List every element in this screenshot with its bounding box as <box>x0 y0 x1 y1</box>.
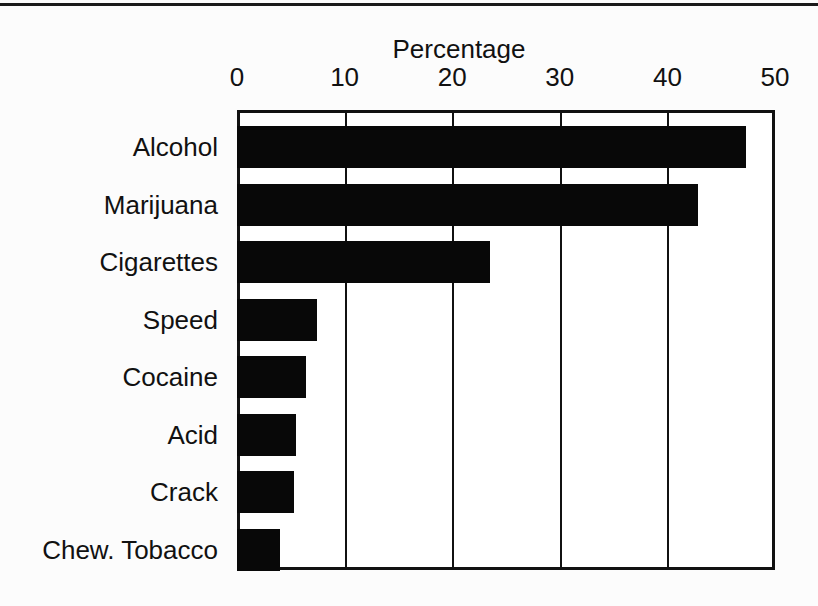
bar <box>237 126 746 168</box>
bar <box>237 414 296 456</box>
y-category-label: Cigarettes <box>100 241 219 283</box>
y-category-label: Cocaine <box>123 356 218 398</box>
y-category-label: Acid <box>167 414 218 456</box>
y-category-label: Marijuana <box>104 184 218 226</box>
x-tick-label: 10 <box>330 62 359 93</box>
y-axis-category-labels: AlcoholMarijuanaCigarettesSpeedCocaineAc… <box>0 110 228 570</box>
bar <box>237 356 306 398</box>
x-tick-label: 40 <box>653 62 682 93</box>
bar <box>237 184 698 226</box>
bar <box>237 299 317 341</box>
bars-layer <box>237 110 775 570</box>
x-tick-label: 30 <box>545 62 574 93</box>
y-category-label: Chew. Tobacco <box>42 529 218 571</box>
y-category-label: Crack <box>150 471 218 513</box>
x-axis-tick-labels: 01020304050 <box>0 62 818 92</box>
top-horizontal-rule <box>0 3 818 6</box>
y-category-label: Speed <box>143 299 218 341</box>
bar-chart-figure: Percentage 01020304050 AlcoholMarijuanaC… <box>0 0 818 606</box>
bar <box>237 241 490 283</box>
x-tick-label: 20 <box>438 62 467 93</box>
bar <box>237 471 294 513</box>
y-category-label: Alcohol <box>133 126 218 168</box>
x-tick-label: 50 <box>761 62 790 93</box>
x-tick-label: 0 <box>230 62 244 93</box>
bar <box>237 529 280 571</box>
x-axis-title: Percentage <box>0 34 818 65</box>
